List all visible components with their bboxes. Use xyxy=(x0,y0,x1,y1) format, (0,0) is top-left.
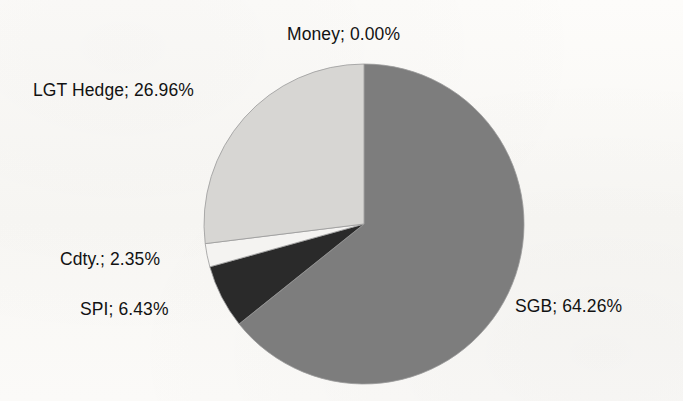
slice-label-money: Money; 0.00% xyxy=(287,26,400,44)
slice-label-cdty: Cdty.; 2.35% xyxy=(60,251,160,269)
slice-label-lgt-hedge: LGT Hedge; 26.96% xyxy=(33,82,194,100)
slice-label-sgb: SGB; 64.26% xyxy=(515,298,622,316)
slice-label-spi: SPI; 6.43% xyxy=(80,301,169,319)
pie-chart-figure: Money; 0.00% LGT Hedge; 26.96% Cdty.; 2.… xyxy=(0,0,683,401)
pie-chart-graphic xyxy=(0,0,683,401)
pie-slice-lgt-hedge xyxy=(204,64,364,244)
